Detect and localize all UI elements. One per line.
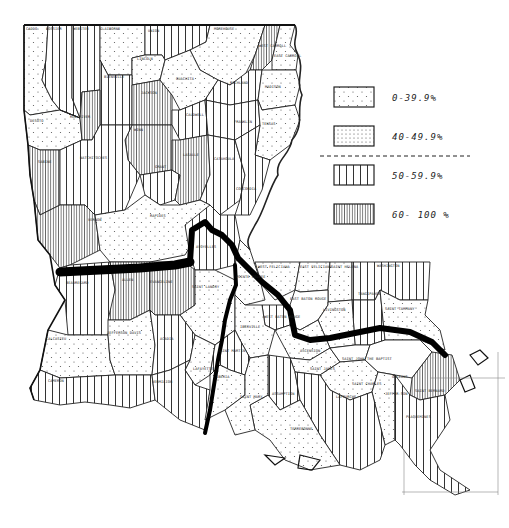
label-claiborne: CLAIBORNE bbox=[100, 27, 120, 31]
label-winn: WINN bbox=[134, 128, 143, 132]
label-ouachita: OUACHITA bbox=[176, 77, 195, 81]
legend-item-40-49: 40-49.9% bbox=[334, 126, 443, 146]
label-jackson: JACKSON bbox=[141, 91, 157, 95]
label-west-feliciana: WEST FELICIANA bbox=[258, 265, 290, 269]
label-desoto: DESOTO bbox=[30, 119, 44, 123]
label-avoyelles: AVOYELLES bbox=[196, 245, 216, 249]
legend: 0-39.9% 40-49.9% 50-59.9% 60- 100 % bbox=[320, 87, 470, 224]
label-concordia: CONCORDIA bbox=[236, 187, 257, 191]
label-saint-charles: SAINT CHARLES bbox=[352, 382, 381, 386]
label-east-carroll: EAST CARROLL bbox=[274, 54, 301, 58]
label-vernon: VERNON bbox=[88, 218, 102, 222]
label-bienville: BIENVILLE bbox=[104, 75, 124, 79]
parish-tensas bbox=[255, 100, 300, 160]
label-grant: GRANT bbox=[155, 165, 167, 169]
label-bossier: BOSSIER bbox=[46, 27, 63, 31]
label-morehouse: MOREHOUSE bbox=[214, 27, 234, 31]
parish-madison bbox=[258, 70, 300, 110]
label-orleans: ORLEANS bbox=[392, 375, 408, 379]
label-franklin: FRANKLIN bbox=[234, 120, 252, 124]
legend-label: 60- 100 % bbox=[392, 210, 450, 220]
label-lafourche: LAFOURCHE bbox=[336, 395, 356, 399]
label-saint-martin: SAINT MARTIN bbox=[218, 349, 245, 353]
label-caldwell: CALDWELL bbox=[186, 113, 204, 117]
legend-swatch-sparse-dots bbox=[334, 87, 374, 107]
label-west-baton-rouge: WEST BATON ROUGE bbox=[264, 315, 300, 319]
label-richland: RICHLAND bbox=[230, 81, 248, 85]
label-allen: ALLEN bbox=[122, 278, 133, 282]
label-madison: MADISON bbox=[265, 85, 281, 89]
label-plaquemines: PLAQUEMINES bbox=[406, 415, 431, 419]
label-saint-tammany: SAINT TAMMANY bbox=[385, 307, 415, 311]
label-natchitoches: NATCHITOCHES bbox=[80, 156, 107, 160]
legend-swatch-dense-lines bbox=[334, 204, 374, 224]
label-catahoula: CATAHOULA bbox=[214, 157, 235, 161]
label-calcasieu: CALCASIEU bbox=[46, 337, 66, 341]
label-ascension: ASCENSION bbox=[300, 349, 320, 353]
label-assumption: ASSUMPTION bbox=[272, 392, 295, 396]
legend-swatch-wide-lines bbox=[334, 165, 374, 185]
legend-item-0-39: 0-39.9% bbox=[334, 87, 437, 107]
label-washington: WASHINGTON bbox=[377, 264, 400, 268]
label-caddo: CADDO bbox=[26, 27, 37, 31]
label-east-baton-rouge: EAST BATON ROUGE bbox=[290, 297, 326, 301]
label-saint-landry: SAINT LANDRY bbox=[192, 285, 220, 289]
label-red-river: RED RIVER bbox=[70, 115, 91, 119]
label-east-feliciana: EAST FELICIANA bbox=[300, 265, 332, 269]
parish-sabine bbox=[28, 145, 60, 215]
label-iberia: IBERIA bbox=[216, 375, 230, 379]
legend-label: 50-59.9% bbox=[392, 171, 443, 181]
parish-jefferson-davis bbox=[108, 310, 155, 375]
label-lincoln: LINCOLN bbox=[137, 57, 153, 61]
label-webster: WEBSTER bbox=[73, 27, 90, 31]
label-saint-james: SAINT JAMES bbox=[310, 367, 335, 371]
louisiana-choropleth-map: CADDO BOSSIER WEBSTER CLAIBORNE UNION MO… bbox=[0, 0, 509, 528]
label-lasalle: LASALLE bbox=[183, 153, 199, 157]
label-saint-bernard: SAINT BERNARD bbox=[415, 389, 444, 393]
label-terrebonne: TERREBONNE bbox=[290, 427, 313, 431]
label-beauregard: BEAUREGARD bbox=[66, 281, 89, 285]
legend-label: 0-39.9% bbox=[392, 93, 437, 103]
legend-label: 40-49.9% bbox=[392, 132, 443, 142]
label-sabine: SABINE bbox=[38, 160, 52, 164]
label-lafayette: LAFAYETTE bbox=[193, 367, 213, 371]
label-west-carroll: WEST CARROLL bbox=[259, 44, 286, 48]
label-saint-helena: SAINT HELENA bbox=[331, 265, 359, 269]
label-evangeline: EVANGELINE bbox=[150, 280, 173, 284]
label-saint-mary: SAINT MARY bbox=[240, 395, 263, 399]
label-acadia: ACADIA bbox=[160, 337, 174, 341]
label-rapides: RAPIDES bbox=[150, 214, 166, 218]
label-cameron: CAMERON bbox=[48, 379, 64, 383]
label-union: UNION bbox=[148, 29, 159, 33]
legend-swatch-dense-dots bbox=[334, 126, 374, 146]
label-livingston: LIVINGSTON bbox=[323, 308, 346, 312]
legend-item-50-59: 50-59.9% bbox=[334, 165, 443, 185]
label-tangipahoa: TANGIPAHOA bbox=[358, 292, 381, 296]
label-jefferson-davis: JEFFERSON DAVIS bbox=[107, 331, 141, 335]
label-vermilion: VERMILION bbox=[152, 380, 172, 384]
label-saint-john: SAINT JOHN THE BAPTIST bbox=[342, 357, 393, 361]
label-jefferson: JEFFER-SON bbox=[385, 392, 408, 396]
label-tensas: TENSAS bbox=[262, 122, 276, 126]
label-iberville: IBERVILLE bbox=[240, 325, 260, 329]
label-pointe-coupee: POINTE COUPEE bbox=[236, 275, 265, 279]
legend-item-60-100: 60- 100 % bbox=[334, 204, 450, 224]
